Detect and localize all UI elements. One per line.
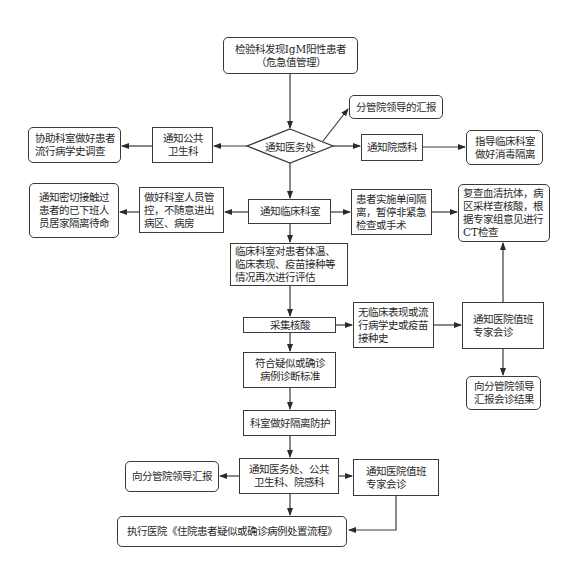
node-assist-epi-investigation: 协助科室做好患者 流行病学史调查 bbox=[28, 127, 121, 163]
node-staff-control-text: 做好科室人员管控，不随意进出病区、病房 bbox=[144, 191, 219, 230]
node-expert-bottom-line2: 专家会诊 bbox=[366, 478, 426, 491]
node-single-room-text: 患者实施单间隔离，暂停非紧急检查或手术 bbox=[356, 193, 427, 232]
node-assist-line2: 流行病学史调查 bbox=[35, 145, 115, 158]
node-public-health-line1: 通知公共 bbox=[163, 132, 203, 145]
node-start-line1: 检验科发现IgM阳性患者 bbox=[235, 43, 347, 56]
node-criteria-line2: 病例诊断标准 bbox=[255, 370, 325, 383]
node-execute-label: 执行医院《住院患者疑似或确诊病例处置流程》 bbox=[127, 525, 337, 538]
node-notify-clinical-label: 通知临床科室 bbox=[260, 205, 320, 218]
node-three-depts-line2: 卫生科、院感科 bbox=[249, 476, 329, 489]
node-guide-disinfection: 指导临床科室 做好消毒隔离 bbox=[466, 130, 543, 165]
node-notify-public-health: 通知公共 卫生科 bbox=[152, 127, 213, 163]
node-recheck-antibody: 复查血清抗体，病区采样查核酸，根据专家组意见进行CT检查 bbox=[458, 184, 550, 242]
node-recheck-text: 复查血清抗体，病区采样查核酸，根据专家组意见进行CT检查 bbox=[463, 187, 545, 239]
node-execute-procedure: 执行医院《住院患者疑似或确诊病例处置流程》 bbox=[117, 516, 347, 547]
node-report-leader-bottom: 向分管院领导汇报 bbox=[125, 461, 219, 492]
node-notify-expert-consult-bottom: 通知医院值班 专家会诊 bbox=[353, 459, 439, 496]
node-public-health-line2: 卫生科 bbox=[163, 145, 203, 158]
node-single-room-isolation: 患者实施单间隔离，暂停非紧急检查或手术 bbox=[351, 189, 432, 235]
node-start-igm-positive: 检验科发现IgM阳性患者 （危急值管理） bbox=[223, 37, 358, 74]
node-three-depts-line1: 通知医务处、公共 bbox=[249, 463, 329, 476]
node-report-leader-label: 分管院领导的汇报 bbox=[356, 101, 436, 114]
node-notify-three-depts: 通知医务处、公共 卫生科、院感科 bbox=[239, 458, 339, 494]
node-notify-close-contacts: 通知密切接触过患者的已下班人员居家隔离待命 bbox=[29, 183, 119, 238]
node-report-result-line2: 汇报会诊结果 bbox=[474, 393, 534, 406]
node-assist-line1: 协助科室做好患者 bbox=[35, 132, 115, 145]
node-report-result-line1: 向分管院领导 bbox=[474, 380, 534, 393]
node-report-leader: 分管院领导的汇报 bbox=[349, 95, 443, 119]
node-start-line2: （危急值管理） bbox=[235, 56, 347, 69]
decision-label: 通知医务处 bbox=[265, 139, 315, 154]
node-expert-right-line2: 专家会诊 bbox=[473, 326, 533, 339]
node-report-leader-bottom-label: 向分管院领导汇报 bbox=[132, 470, 212, 483]
node-re-evaluate-text: 临床科室对患者体温、临床表现、疫苗接种等情况再次进行评估 bbox=[235, 245, 343, 284]
node-guide-line2: 做好消毒隔离 bbox=[475, 148, 535, 161]
node-dept-isolation-protection: 科室做好隔离防护 bbox=[243, 410, 336, 436]
node-collect-label: 采集核酸 bbox=[270, 319, 310, 332]
node-report-consult-result: 向分管院领导 汇报会诊结果 bbox=[466, 376, 541, 410]
node-close-contacts-text: 通知密切接触过患者的已下班人员居家隔离待命 bbox=[38, 191, 110, 230]
node-collect-nucleic-acid: 采集核酸 bbox=[243, 317, 336, 333]
node-notify-infection-dept-label: 通知院感科 bbox=[367, 141, 417, 154]
node-re-evaluate: 临床科室对患者体温、临床表现、疫苗接种等情况再次进行评估 bbox=[230, 243, 348, 286]
node-no-clinical-text: 无临床表现或流行病学史或疫苗接种史 bbox=[358, 306, 429, 345]
node-staff-control: 做好科室人员管控，不随意进出病区、病房 bbox=[139, 187, 224, 233]
node-expert-bottom-line1: 通知医院值班 bbox=[366, 465, 426, 478]
node-notify-expert-consult-right: 通知医院值班 专家会诊 bbox=[462, 302, 544, 349]
node-criteria-line1: 符合疑似或确诊 bbox=[255, 357, 325, 370]
node-notify-infection-dept: 通知院感科 bbox=[361, 134, 423, 161]
node-no-clinical-history: 无临床表现或流行病学史或疫苗接种史 bbox=[353, 302, 434, 348]
node-expert-right-line1: 通知医院值班 bbox=[473, 313, 533, 326]
node-guide-line1: 指导临床科室 bbox=[475, 135, 535, 148]
node-isolation-label: 科室做好隔离防护 bbox=[250, 417, 330, 430]
decision-notify-medical-affairs: 通知医务处 bbox=[247, 129, 333, 163]
node-notify-clinical-dept: 通知临床科室 bbox=[248, 199, 331, 224]
node-meets-diagnosis-criteria: 符合疑似或确诊 病例诊断标准 bbox=[243, 352, 336, 388]
